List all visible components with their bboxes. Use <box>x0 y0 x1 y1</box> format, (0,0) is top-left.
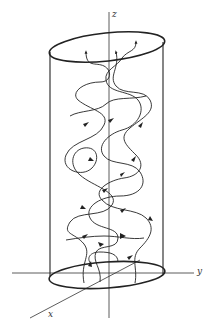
arrow-icon <box>83 122 89 127</box>
cylinder-bottom-ellipse <box>48 258 166 292</box>
arrow-icon <box>131 156 136 162</box>
cylinder-top-ellipse <box>48 27 166 67</box>
field-line-5 <box>66 236 144 240</box>
field-line-3 <box>89 42 143 282</box>
field-line-1 <box>65 52 113 283</box>
z-axis-label: z <box>112 9 117 19</box>
field-lines <box>65 42 151 283</box>
field-line-6 <box>70 96 146 116</box>
arrow-icon <box>138 122 143 128</box>
arrow-icon <box>120 172 125 177</box>
arrow-icon <box>148 216 153 221</box>
arrow-icon <box>88 157 94 161</box>
x-axis-label: x <box>48 309 53 319</box>
y-axis-label: y <box>197 266 202 276</box>
field-line-2 <box>99 52 151 283</box>
arrow-icon <box>82 234 88 239</box>
arrow-icon <box>80 205 86 209</box>
direction-arrows <box>80 118 153 267</box>
arrow-icon <box>98 242 104 247</box>
coordinate-axes <box>12 12 194 318</box>
arrow-icon <box>127 255 133 260</box>
cylinder-field-lines-diagram <box>0 0 212 332</box>
